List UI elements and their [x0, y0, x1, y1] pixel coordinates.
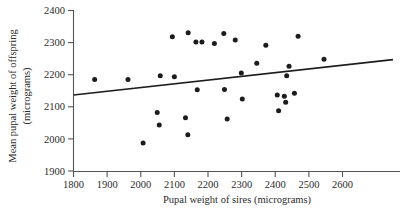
data-points-group: [92, 30, 326, 145]
data-point: [287, 64, 292, 69]
data-point: [233, 38, 238, 43]
data-point: [193, 39, 198, 44]
data-point: [292, 91, 297, 96]
trend-line-group: [74, 60, 393, 95]
x-tick-label: 1800: [63, 179, 84, 190]
data-point: [170, 34, 175, 39]
y-axis-title-line2: (micrograms): [21, 67, 33, 125]
scatter-plot-figure: Mean pupal weight of offspring (microgra…: [0, 0, 407, 215]
y-tick-label: 2200: [44, 69, 65, 80]
x-tick-label: 2100: [164, 179, 185, 190]
data-point: [125, 77, 130, 82]
data-point: [222, 87, 227, 92]
y-tick-label: 1900: [44, 166, 65, 177]
data-point: [199, 39, 204, 44]
data-point: [157, 123, 162, 128]
y-axis-tick-labels: 190020002100220023002400: [44, 5, 65, 177]
data-point: [155, 110, 160, 115]
data-point: [282, 94, 287, 99]
x-tick-label: 2600: [332, 179, 353, 190]
data-point: [275, 92, 280, 97]
data-point: [195, 87, 200, 92]
data-point: [221, 31, 226, 36]
data-point: [284, 73, 289, 78]
regression-trend-line: [74, 60, 393, 95]
data-point: [263, 43, 268, 48]
x-tick-label: 2300: [231, 179, 252, 190]
x-tick-label: 2500: [298, 179, 319, 190]
data-point: [322, 57, 327, 62]
y-tick-label: 2100: [44, 101, 65, 112]
y-tick-label: 2300: [44, 37, 65, 48]
data-point: [158, 73, 163, 78]
x-axis-ticks: [74, 172, 343, 178]
data-point: [296, 34, 301, 39]
y-tick-label: 2400: [44, 5, 65, 16]
data-point: [183, 115, 188, 120]
data-point: [240, 97, 245, 102]
y-tick-label: 2000: [44, 134, 65, 145]
x-tick-label: 2000: [130, 179, 151, 190]
x-tick-label: 2400: [265, 179, 286, 190]
data-point: [239, 71, 244, 76]
y-axis-title-group: Mean pupal weight of offspring (microgra…: [7, 29, 33, 163]
data-point: [185, 132, 190, 137]
x-axis: 180019002000210022002300240025002600 Pup…: [63, 172, 400, 207]
x-tick-label: 2200: [198, 179, 219, 190]
data-point: [225, 116, 230, 121]
data-point: [283, 100, 288, 105]
x-axis-tick-labels: 180019002000210022002300240025002600: [63, 179, 353, 190]
x-tick-label: 1900: [97, 179, 118, 190]
data-point: [172, 74, 177, 79]
data-point: [141, 141, 146, 146]
data-point: [212, 41, 217, 46]
y-axis-ticks: [68, 11, 74, 172]
y-axis-title-line1: Mean pupal weight of offspring: [7, 29, 18, 163]
data-point: [186, 30, 191, 35]
data-point: [276, 108, 281, 113]
y-axis: 190020002100220023002400: [44, 5, 74, 177]
chart-canvas: Mean pupal weight of offspring (microgra…: [0, 0, 407, 215]
data-point: [254, 61, 259, 66]
data-point: [92, 77, 97, 82]
x-axis-title: Pupal weight of sires (micrograms): [163, 194, 312, 206]
